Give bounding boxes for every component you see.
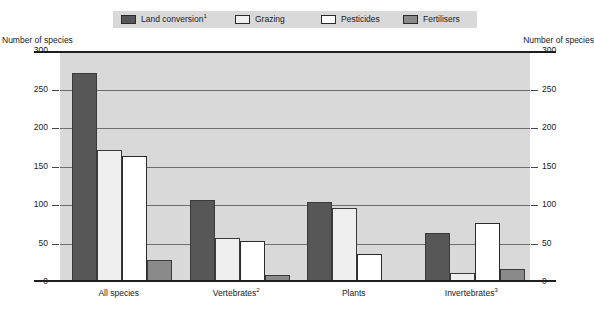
chart-plot-area: 050100150200250300 050100150200250300 Al…	[60, 51, 530, 282]
axis-tick	[52, 167, 59, 168]
y-axis-tick-label: 300	[34, 46, 48, 55]
axis-tick	[531, 90, 538, 91]
bar-pesticides[interactable]	[357, 254, 382, 282]
bar-fertilisers[interactable]	[147, 260, 172, 282]
legend-item-fertilisers: Fertilisers	[403, 11, 460, 28]
y-axis-tick-label: 200	[542, 123, 556, 132]
bar-group: Invertebrates3	[413, 51, 531, 282]
bar-land-conversion[interactable]	[425, 233, 450, 282]
legend-swatch-icon	[403, 15, 418, 24]
legend-item-label: Grazing	[255, 15, 285, 24]
axis-tick	[52, 128, 59, 129]
bar-land-conversion[interactable]	[72, 73, 97, 282]
bar-set	[295, 51, 413, 282]
axis-tick	[52, 205, 59, 206]
legend-item-label: Land conversion1	[141, 15, 207, 24]
y-axis-tick-label: 100	[542, 200, 556, 209]
bar-grazing[interactable]	[332, 208, 357, 282]
y-axis-tick-label: 250	[542, 85, 556, 94]
bar-group: Plants	[295, 51, 413, 282]
category-label: All species	[60, 288, 178, 298]
axis-tick	[531, 128, 538, 129]
legend-swatch-icon	[235, 15, 250, 24]
y-axis-tick-label: 50	[39, 239, 48, 248]
y-axis-tick-label: 250	[34, 85, 48, 94]
axis-tick	[52, 90, 59, 91]
left-axis-title: Number of species	[2, 35, 73, 45]
bar-pesticides[interactable]	[122, 156, 147, 282]
legend-item-land-conversion: Land conversion1	[121, 11, 207, 28]
legend-item-label: Fertilisers	[423, 15, 460, 24]
legend-item-grazing: Grazing	[235, 11, 285, 28]
category-label: Invertebrates3	[413, 288, 531, 298]
axis-tick	[531, 244, 538, 245]
y-axis-tick-label: 50	[542, 239, 551, 248]
axis-tick	[531, 205, 538, 206]
y-axis-tick-label: 150	[542, 162, 556, 171]
axis-tick	[52, 244, 59, 245]
plot-baseline	[34, 280, 556, 282]
bar-set	[413, 51, 531, 282]
bar-grazing[interactable]	[215, 238, 240, 282]
right-axis-title: Number of species	[523, 35, 594, 45]
bar-set	[60, 51, 178, 282]
y-axis-tick-label: 100	[34, 200, 48, 209]
y-axis-tick-label: 150	[34, 162, 48, 171]
bar-groups: All speciesVertebrates2PlantsInvertebrat…	[60, 51, 530, 282]
bar-set	[178, 51, 296, 282]
y-axis-tick-label: 200	[34, 123, 48, 132]
bar-land-conversion[interactable]	[307, 202, 332, 282]
bar-pesticides[interactable]	[240, 241, 265, 282]
bar-land-conversion[interactable]	[190, 200, 215, 282]
bar-grazing[interactable]	[97, 150, 122, 282]
y-axis-tick-label: 300	[542, 46, 556, 55]
legend-swatch-icon	[121, 15, 136, 24]
category-label: Vertebrates2	[178, 288, 296, 298]
bar-group: All species	[60, 51, 178, 282]
legend-item-label: Pesticides	[341, 15, 380, 24]
category-label: Plants	[295, 288, 413, 298]
bar-group: Vertebrates2	[178, 51, 296, 282]
legend-swatch-icon	[321, 15, 336, 24]
bar-pesticides[interactable]	[475, 223, 500, 282]
legend-item-pesticides: Pesticides	[321, 11, 380, 28]
axis-tick	[531, 167, 538, 168]
chart-legend: Land conversion1 Grazing Pesticides Fert…	[113, 11, 477, 28]
